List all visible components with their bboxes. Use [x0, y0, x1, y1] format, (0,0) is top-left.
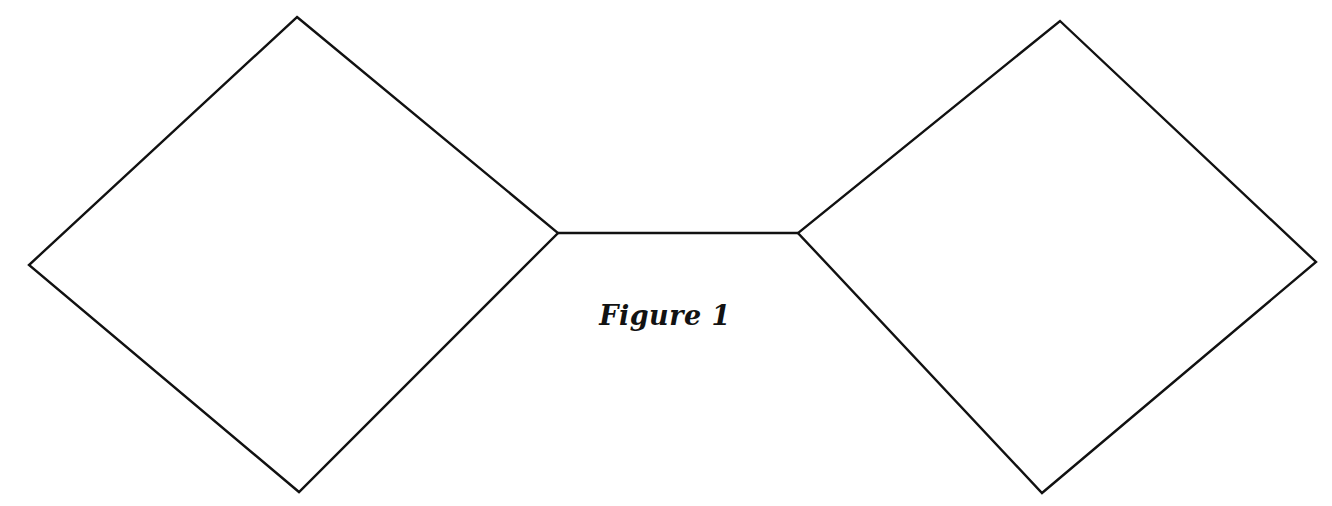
right-diamond-shape [798, 21, 1316, 493]
figure-drawing [0, 0, 1332, 506]
figure-caption: Figure 1 [0, 299, 1331, 333]
figure-canvas: Figure 1 [0, 0, 1332, 506]
left-diamond-shape [29, 17, 558, 492]
